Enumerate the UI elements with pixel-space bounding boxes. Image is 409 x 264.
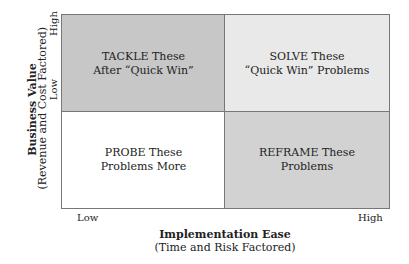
x-axis-low: Low <box>77 212 98 223</box>
y-axis-high: High <box>48 9 59 39</box>
quadrant-reframe-label: REFRAME These Problems <box>259 146 355 174</box>
x-axis-high: High <box>358 212 383 223</box>
quadrant-solve: SOLVE These “Quick Win” Problems <box>225 14 390 112</box>
y-axis-low: Low <box>48 75 59 105</box>
horizontal-divider <box>61 111 390 112</box>
quadrant-probe-label: PROBE These Problems More <box>101 146 187 174</box>
quadrant-probe: PROBE These Problems More <box>61 112 225 209</box>
x-axis-title: Implementation Ease <box>125 228 325 241</box>
quadrant-solve-label: SOLVE These “Quick Win” Problems <box>245 50 370 78</box>
quadrant-reframe: REFRAME These Problems <box>225 112 390 209</box>
x-axis-subtitle: (Time and Risk Factored) <box>125 241 325 254</box>
quadrant-tackle-label: TACKLE These After “Quick Win” <box>93 50 193 78</box>
quadrant-tackle: TACKLE These After “Quick Win” <box>61 14 225 112</box>
y-axis-subtitle: (Revenue and Cost Factored) <box>36 30 49 190</box>
